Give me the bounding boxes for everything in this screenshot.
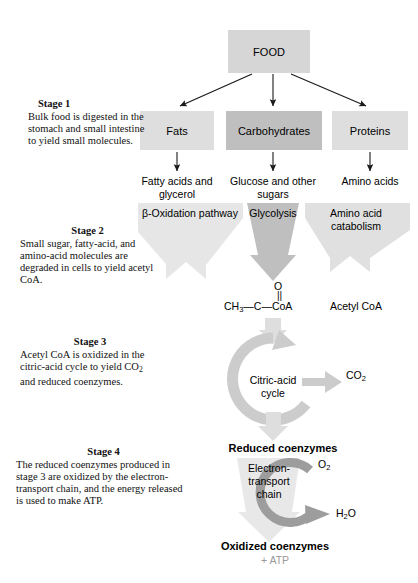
etc-label-line2: transport bbox=[248, 475, 289, 487]
stage-4-heading: Stage 4 bbox=[16, 446, 191, 457]
proteins-box[interactable]: Proteins bbox=[332, 111, 408, 150]
stage-4-body: The reduced coenzymes produced in stage … bbox=[16, 459, 191, 507]
stage-3-body-pre: Acetyl CoA is oxidized in the citric-aci… bbox=[20, 349, 145, 372]
stage-1-heading: Stage 1 bbox=[28, 98, 148, 109]
proteins-box-label: Proteins bbox=[350, 125, 390, 137]
food-box-label: FOOD bbox=[253, 46, 285, 58]
h2o-label-pre: H bbox=[336, 507, 344, 519]
electron-transport-chain-label: Electron- transport chain bbox=[232, 462, 306, 501]
citric-acid-cycle-label: Citric-acid cycle bbox=[235, 374, 311, 399]
citric-acid-cycle-label-line1: Citric-acid bbox=[250, 374, 297, 386]
acetyl-formula: CH3—C—CoA bbox=[224, 300, 292, 314]
acetyl-formula-post: —C—CoA bbox=[243, 300, 292, 312]
fatty-acids-label: Fatty acids and glycerol bbox=[129, 175, 225, 200]
stage-1-block: Stage 1 Bulk food is digested in the sto… bbox=[28, 98, 148, 147]
stage-3-body-subscript: 2 bbox=[139, 365, 143, 374]
stage-2-body: Small sugar, fatty-acid, and amino-acid … bbox=[20, 238, 155, 286]
carbohydrates-box-label: Carbohydrates bbox=[238, 125, 310, 137]
co2-label-subscript: 2 bbox=[362, 374, 366, 383]
oxidized-coenzymes-label: Oxidized coenzymes bbox=[190, 540, 360, 553]
citric-acid-cycle-label-line2: cycle bbox=[261, 387, 285, 399]
acetyl-coa-name: Acetyl CoA bbox=[330, 300, 406, 313]
stage-2-heading: Stage 2 bbox=[20, 225, 155, 236]
stage-3-heading: Stage 3 bbox=[20, 336, 160, 347]
reduced-coenzymes-label: Reduced coenzymes bbox=[203, 442, 363, 455]
fats-box[interactable]: Fats bbox=[140, 111, 214, 150]
stage-1-body: Bulk food is digested in the stomach and… bbox=[28, 111, 148, 147]
co2-label: CO2 bbox=[346, 369, 388, 386]
stage-3-block: Stage 3 Acetyl CoA is oxidized in the ci… bbox=[20, 336, 160, 388]
arrow-food-to-fats bbox=[180, 74, 252, 106]
stage-3-body-post: and reduced coenzymes. bbox=[20, 376, 123, 387]
co2-label-pre: CO bbox=[346, 369, 362, 381]
beta-oxidation-label: β-Oxidation pathway bbox=[142, 207, 238, 220]
glucose-label: Glucose and other sugars bbox=[225, 175, 321, 200]
carbohydrates-box[interactable]: Carbohydrates bbox=[226, 111, 322, 150]
atp-label: + ATP bbox=[190, 554, 360, 567]
diagram-canvas: Stage 1 Bulk food is digested in the sto… bbox=[0, 0, 418, 583]
etc-label-line3: chain bbox=[256, 488, 281, 500]
arrow-food-to-proteins bbox=[291, 74, 366, 106]
amino-acids-label: Amino acids bbox=[326, 175, 414, 188]
o2-label-pre: O bbox=[318, 458, 326, 470]
stage-3-body: Acetyl CoA is oxidized in the citric-aci… bbox=[20, 349, 160, 388]
stage-2-block: Stage 2 Small sugar, fatty-acid, and ami… bbox=[20, 225, 155, 286]
acetyl-formula-pre: CH bbox=[224, 300, 239, 312]
h2o-label-post: O bbox=[348, 507, 356, 519]
o2-label-subscript: 2 bbox=[326, 463, 330, 472]
o2-label: O2 bbox=[318, 458, 354, 475]
food-box[interactable]: FOOD bbox=[228, 30, 310, 73]
h2o-label: H2O bbox=[336, 507, 380, 524]
etc-label-line1: Electron- bbox=[248, 462, 290, 474]
fats-box-label: Fats bbox=[166, 125, 187, 137]
amino-catabolism-label: Amino acid catabolism bbox=[310, 207, 402, 232]
glycolysis-label: Glycolysis bbox=[240, 207, 306, 220]
acetyl-coa-structure: O || CH3—C—CoA bbox=[224, 281, 344, 315]
stage-4-block: Stage 4 The reduced coenzymes produced i… bbox=[16, 446, 191, 507]
